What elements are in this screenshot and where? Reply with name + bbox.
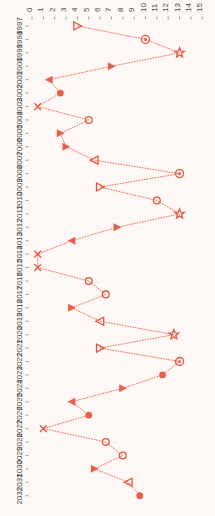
data-point-marker[interactable] [142, 35, 150, 43]
data-point-marker[interactable] [68, 398, 76, 406]
data-point-marker[interactable] [62, 143, 70, 151]
data-series [34, 22, 184, 499]
data-point-marker[interactable] [57, 90, 64, 97]
x-tick-label: 11 [150, 3, 159, 12]
data-point-marker[interactable] [169, 330, 179, 339]
x-tick-label: 12 [161, 3, 170, 12]
data-point-marker[interactable] [114, 223, 122, 231]
data-point-marker[interactable] [159, 372, 166, 379]
data-point-marker[interactable] [108, 62, 116, 70]
x-tick-label: 2 [48, 7, 57, 12]
x-tick-label: 5 [82, 7, 91, 12]
x-tick-label: 13 [173, 3, 182, 12]
x-tick-label: 9 [127, 7, 136, 12]
x-tick-label: 7 [104, 7, 113, 12]
x-tick-label: 3 [59, 7, 68, 12]
data-point-marker[interactable] [68, 304, 76, 312]
data-point-marker[interactable] [136, 492, 143, 499]
chart-container: 0123456789101112131415 19971998199920002… [0, 0, 215, 516]
data-point-marker[interactable] [85, 412, 92, 419]
x-tick-label: 8 [116, 7, 125, 12]
data-point-marker[interactable] [68, 237, 76, 245]
data-point-marker[interactable] [45, 76, 53, 84]
x-tick-label: 0 [25, 7, 34, 12]
y-axis: 1997199819992000200120022003200420052006… [15, 17, 28, 505]
x-tick-label: 14 [184, 3, 193, 12]
data-point-marker[interactable] [96, 317, 104, 325]
data-point-marker[interactable] [119, 384, 127, 392]
vertical-connected-scatter-chart: 0123456789101112131415 19971998199920002… [0, 0, 215, 516]
x-tick-label: 15 [195, 3, 204, 12]
x-tick-label: 4 [70, 7, 79, 12]
x-tick-label: 10 [139, 3, 148, 12]
x-tick-label: 1 [36, 7, 45, 12]
x-axis: 0123456789101112131415 [25, 3, 204, 20]
data-point-marker[interactable] [40, 425, 47, 432]
data-point-marker[interactable] [91, 465, 99, 473]
x-tick-label: 6 [93, 7, 102, 12]
data-point-marker[interactable] [57, 129, 65, 137]
y-tick-label: 2032 [15, 486, 24, 504]
data-point-marker[interactable] [34, 103, 41, 110]
series-line [38, 26, 180, 496]
